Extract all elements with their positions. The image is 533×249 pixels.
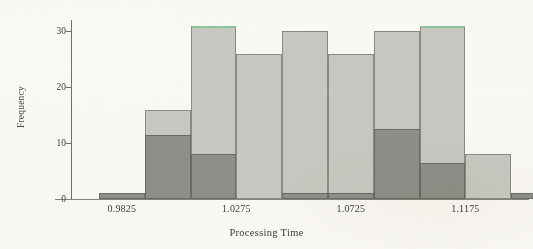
- histogram-bar: [191, 154, 237, 199]
- x-axis-title: Processing Time: [0, 227, 533, 238]
- histogram-bar: [328, 54, 374, 199]
- histogram-figure: 0102030 0.98251.02751.07251.1175 Frequen…: [0, 0, 533, 249]
- histogram-bar: [282, 31, 328, 199]
- plot-area: 0102030 0.98251.02751.07251.1175 Frequen…: [0, 0, 533, 249]
- histogram-bar: [99, 193, 145, 199]
- histogram-bar: [145, 135, 191, 199]
- y-axis-title: Frequency: [16, 62, 30, 152]
- histogram-bar: [282, 193, 328, 199]
- histogram-bars: [0, 0, 533, 249]
- histogram-bar: [236, 54, 282, 199]
- histogram-bar: [511, 193, 533, 199]
- histogram-bar: [420, 163, 466, 199]
- histogram-bar: [328, 193, 374, 199]
- histogram-bar: [374, 129, 420, 199]
- histogram-bar: [465, 154, 511, 199]
